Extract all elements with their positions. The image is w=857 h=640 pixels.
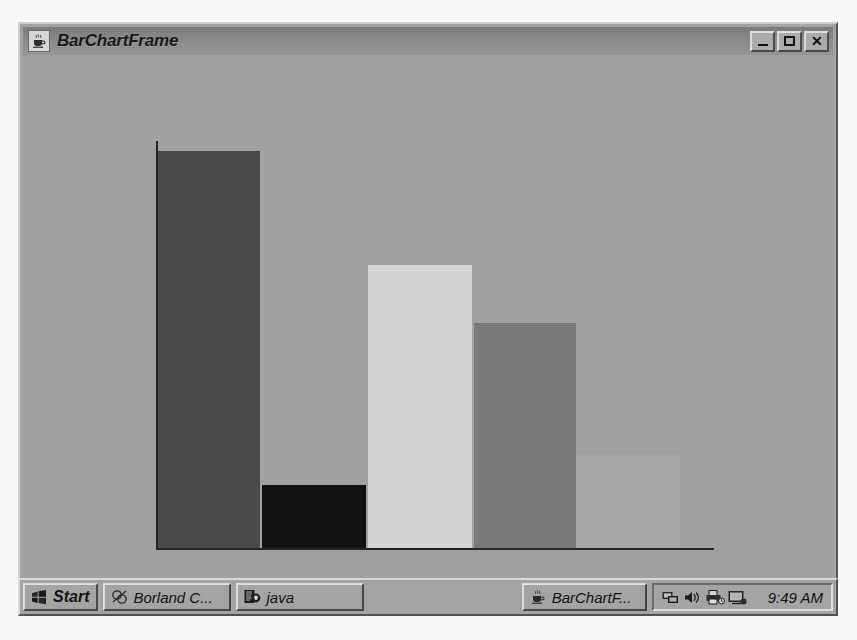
start-button[interactable]: Start	[23, 583, 98, 611]
windows-flag-icon	[30, 588, 48, 606]
java-coffee-cup-icon	[529, 588, 547, 606]
taskbar: Start Borland C... java	[18, 578, 838, 616]
minimize-icon	[758, 44, 768, 46]
chart-bar	[262, 485, 366, 548]
start-button-label: Start	[53, 588, 89, 606]
close-button[interactable]: ✕	[804, 31, 829, 52]
display-icon[interactable]	[728, 589, 747, 606]
volume-icon[interactable]	[684, 589, 703, 606]
chart-bar	[576, 455, 680, 548]
taskbar-item-borland[interactable]: Borland C...	[103, 583, 231, 611]
window-title-bar[interactable]: BarChartFrame ✕	[23, 27, 833, 55]
taskbar-item-barchartframe-label: BarChartF...	[552, 589, 632, 606]
minimize-button[interactable]	[750, 31, 775, 52]
taskbar-item-java[interactable]: java	[236, 583, 364, 611]
borland-icon	[110, 588, 128, 606]
network-icon[interactable]	[662, 589, 681, 606]
bar-chart-canvas	[23, 55, 833, 597]
chart-x-axis	[156, 548, 714, 550]
desktop-screenshot: BarChartFrame ✕	[0, 0, 857, 640]
system-tray: 9:49 AM	[652, 583, 833, 611]
taskbar-item-java-label: java	[266, 589, 294, 606]
java-coffee-cup-icon	[28, 30, 50, 52]
barchart-window: BarChartFrame ✕	[18, 22, 838, 602]
maximize-icon	[784, 36, 795, 46]
chart-y-axis	[156, 141, 158, 550]
chart-client-area	[23, 55, 833, 597]
chart-bar	[156, 151, 260, 548]
taskbar-item-barchartframe[interactable]: BarChartF...	[522, 583, 647, 611]
chart-bar	[368, 265, 472, 548]
printer-icon[interactable]	[706, 589, 725, 606]
maximize-button[interactable]	[777, 31, 802, 52]
chart-bar	[474, 323, 576, 548]
taskbar-clock[interactable]: 9:49 AM	[768, 589, 823, 606]
close-icon: ✕	[811, 34, 823, 48]
window-title-text: BarChartFrame	[57, 31, 178, 51]
taskbar-item-borland-label: Borland C...	[133, 589, 212, 606]
java-console-icon	[243, 588, 261, 606]
